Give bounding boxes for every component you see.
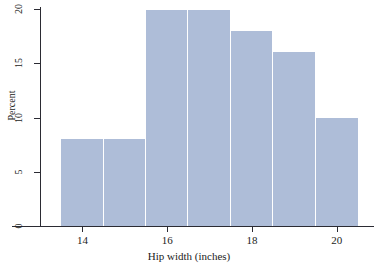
histogram-bar xyxy=(273,52,315,226)
y-axis-tick-label: 5 xyxy=(14,159,24,185)
x-axis-title: Hip width (inches) xyxy=(0,250,378,262)
x-axis-tick-label: 14 xyxy=(67,235,97,246)
y-axis-tick-label: 0 xyxy=(14,213,24,239)
plot-area xyxy=(40,9,375,226)
x-axis-tick xyxy=(252,226,253,232)
x-axis-line xyxy=(12,226,374,227)
y-axis-tick-label: 20 xyxy=(14,0,24,22)
y-axis-tick xyxy=(34,118,40,119)
y-axis-tick xyxy=(34,63,40,64)
histogram-bar xyxy=(231,31,273,226)
x-axis-tick xyxy=(167,226,168,232)
y-axis-tick xyxy=(34,9,40,10)
x-axis-tick xyxy=(82,226,83,232)
histogram-bar xyxy=(316,118,358,227)
x-axis-tick-label: 20 xyxy=(322,235,352,246)
x-axis-tick xyxy=(337,226,338,232)
histogram-bar xyxy=(188,10,230,226)
y-axis-tick xyxy=(34,172,40,173)
x-axis-tick-label: 18 xyxy=(237,235,267,246)
y-axis-line xyxy=(40,7,41,227)
histogram-bar xyxy=(61,139,103,226)
histogram-figure: 05101520 14161820 Hip width (inches) Per… xyxy=(0,0,378,268)
y-axis-title: Percent xyxy=(6,56,17,156)
histogram-bar xyxy=(146,10,188,226)
x-axis-tick-label: 16 xyxy=(152,235,182,246)
y-axis-tick xyxy=(34,226,40,227)
histogram-bar xyxy=(104,139,146,226)
